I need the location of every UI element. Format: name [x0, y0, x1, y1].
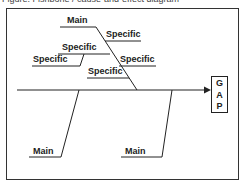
- bottom-main-1-bone: [61, 90, 79, 157]
- specific-4-label: Specific: [120, 54, 155, 64]
- specific-2-label: Specific: [62, 42, 97, 52]
- fishbone-diagram: G A P Main Specific Specific Specific Sp…: [0, 0, 244, 184]
- specific-3-bone: [80, 54, 84, 66]
- gap-letter-p: P: [216, 101, 222, 111]
- specific-3-label: Specific: [33, 54, 68, 64]
- arrow-head-icon: [204, 87, 211, 94]
- top-main-label: Main: [67, 15, 88, 25]
- specific-1-label: Specific: [106, 29, 141, 39]
- specific-5-label: Specific: [88, 66, 123, 76]
- bottom-main-1-label: Main: [33, 146, 54, 156]
- bottom-main-2-label: Main: [125, 146, 146, 156]
- gap-letter-a: A: [216, 90, 223, 100]
- gap-letter-g: G: [216, 78, 223, 88]
- bottom-main-2-bone: [162, 90, 172, 157]
